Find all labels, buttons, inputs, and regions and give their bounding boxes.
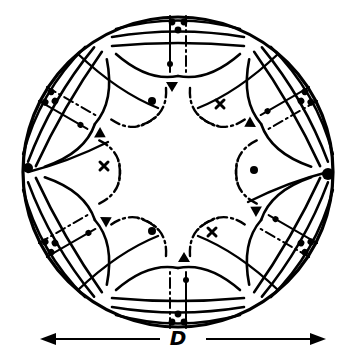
sector-0 — [112, 16, 244, 126]
field-pattern — [10, 16, 346, 328]
dimension-label: D — [166, 326, 190, 350]
diagram-canvas — [0, 0, 356, 363]
sector-180 — [112, 218, 244, 328]
